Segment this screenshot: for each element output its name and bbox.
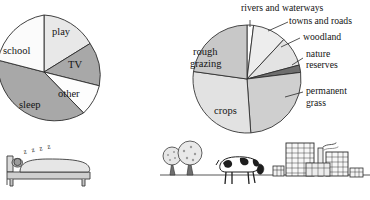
- pie-label-rough-grazing-line1: rough: [193, 47, 218, 58]
- small-building-icon: [273, 166, 284, 176]
- leader-towns: [268, 22, 288, 31]
- pie-slices: [193, 25, 301, 133]
- pie-label-tv: TV: [68, 60, 82, 71]
- callout-label-rivers-and-waterways: rivers and waterways: [241, 3, 323, 13]
- sleeper-head: [14, 158, 21, 165]
- pie-label-play: play: [52, 27, 70, 38]
- pie-slices: [0, 15, 100, 121]
- bed-duvet: [20, 159, 90, 172]
- slice-crops[interactable]: [193, 72, 251, 134]
- callout-label-nature-line2: reserves: [306, 60, 338, 70]
- pie-label-crops: crops: [214, 106, 237, 117]
- bed-leg-left: [10, 179, 13, 186]
- slice-permanent-grass[interactable]: [247, 72, 301, 132]
- countryside-city-illustration: [160, 135, 370, 200]
- pie-label-school: school: [3, 46, 30, 57]
- pie-label-sleep: sleep: [19, 100, 41, 111]
- tree-icon: [178, 141, 202, 175]
- time-use-pie-chart: [0, 0, 130, 135]
- land-use-pie-chart: [185, 20, 315, 140]
- bed-leg-right: [82, 179, 85, 186]
- zzz-text: z z z z: [23, 142, 53, 156]
- callout-label-nature-line1: nature: [306, 49, 330, 59]
- pie-label-rough-grazing-line2: grazing: [190, 59, 222, 70]
- pie-label-other: other: [58, 89, 80, 100]
- small-building-icon: [350, 168, 363, 177]
- callout-label-grass-line2: grass: [306, 98, 326, 108]
- bed-base: [7, 172, 90, 179]
- callout-label-towns-and-roads: towns and roads: [289, 16, 352, 26]
- sleeping-person-in-bed-illustration: z z z z: [2, 138, 107, 196]
- callout-label-woodland: woodland: [303, 32, 341, 42]
- low-building-icon: [306, 163, 330, 176]
- callout-label-grass-line1: permanent: [306, 86, 347, 96]
- figure-canvas: play TV other sleep school: [0, 0, 370, 200]
- grazing-cow-icon: [216, 157, 264, 184]
